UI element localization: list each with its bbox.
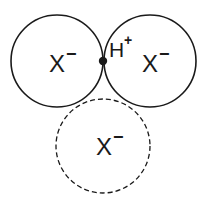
left-anion-label: X [49,50,65,77]
left-anion-charge: − [66,44,77,64]
bottom-anion-charge: − [113,127,124,147]
bottom-anion-label: X [96,133,112,160]
proton-charge: + [124,32,132,48]
proton-label: H [109,38,124,61]
right-anion-charge: − [159,44,170,64]
proton-dot [99,57,107,65]
ion-diagram: X − X − X − H + [0,0,206,207]
right-anion-label: X [142,50,158,77]
